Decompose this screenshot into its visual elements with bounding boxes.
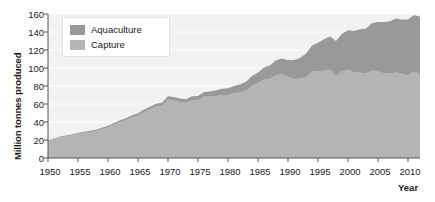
chart-figure: Million tonnes produced 160 140 120 100 … xyxy=(0,0,435,202)
legend-swatch-aquaculture xyxy=(70,25,85,35)
legend-label: Aquaculture xyxy=(91,24,142,35)
legend-item-aquaculture: Aquaculture xyxy=(63,22,169,37)
legend-swatch-capture xyxy=(70,40,85,50)
chart-legend: Aquaculture Capture xyxy=(62,17,170,57)
legend-item-capture: Capture xyxy=(63,37,169,52)
legend-label: Capture xyxy=(91,39,125,50)
